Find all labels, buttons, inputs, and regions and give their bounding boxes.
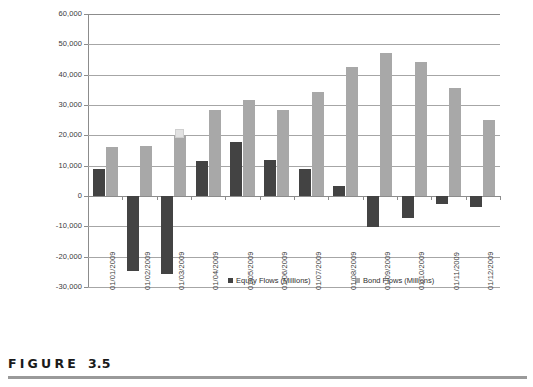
bar-equity-01/09/2009 xyxy=(367,196,379,227)
y-tick--30000 xyxy=(84,287,88,288)
bar-bond-01/03/2009 xyxy=(174,136,186,196)
bar-equity-01/10/2009 xyxy=(402,196,414,218)
bar-bond-01/11/2009 xyxy=(449,88,461,196)
figure-number: 3.5 xyxy=(88,356,111,371)
bar-bond-01/04/2009 xyxy=(209,110,221,196)
bar-equity-01/12/2009 xyxy=(470,196,482,207)
x-tick xyxy=(157,196,158,200)
x-axis-tick-label: 01/07/2009 xyxy=(314,230,323,290)
bar-equity-01/02/2009 xyxy=(127,196,139,271)
bar-bond-01/12/2009 xyxy=(483,120,495,196)
bar-equity-01/07/2009 xyxy=(299,169,311,196)
y-tick-40000 xyxy=(84,75,88,76)
x-axis-tick-label: 01/08/2009 xyxy=(349,230,358,290)
x-axis-labels: 01/01/200901/02/200901/03/200901/04/2009… xyxy=(88,290,500,352)
bar-bond-01/07/2009 xyxy=(312,92,324,196)
bar-bond-01/05/2009 xyxy=(243,100,255,196)
x-axis-tick-label: 01/11/2009 xyxy=(452,230,461,290)
gridline-60000 xyxy=(88,14,500,15)
x-axis-tick-label: 01/05/2009 xyxy=(246,230,255,290)
y-axis-tick-label: 30,000 xyxy=(36,101,82,109)
y-axis-tick-label: -30,000 xyxy=(36,283,82,291)
bar-top-artifact xyxy=(175,129,184,138)
x-tick xyxy=(191,196,192,200)
y-axis-tick-label: -20,000 xyxy=(36,253,82,261)
y-axis-tick-label: -10,000 xyxy=(36,222,82,230)
x-tick xyxy=(466,196,467,200)
x-tick xyxy=(431,196,432,200)
bar-chart: 60,00050,00040,00030,00020,00010,0000-10… xyxy=(0,0,533,352)
x-tick xyxy=(500,196,501,200)
x-axis-tick-label: 01/02/2009 xyxy=(143,230,152,290)
bar-bond-01/06/2009 xyxy=(277,110,289,196)
y-tick--10000 xyxy=(84,226,88,227)
y-axis-tick-label: 50,000 xyxy=(36,40,82,48)
bar-equity-01/04/2009 xyxy=(196,161,208,196)
bar-bond-01/01/2009 xyxy=(106,147,118,196)
y-tick--20000 xyxy=(84,257,88,258)
x-tick xyxy=(397,196,398,200)
y-tick-10000 xyxy=(84,166,88,167)
x-tick xyxy=(260,196,261,200)
bar-bond-01/08/2009 xyxy=(346,67,358,196)
x-axis-tick-label: 01/06/2009 xyxy=(280,230,289,290)
x-axis-tick-label: 01/09/2009 xyxy=(383,230,392,290)
y-axis-line xyxy=(88,14,89,287)
bar-equity-01/06/2009 xyxy=(264,160,276,196)
y-tick-50000 xyxy=(84,44,88,45)
gridline-20000 xyxy=(88,135,500,136)
x-tick xyxy=(328,196,329,200)
y-axis-tick-label: 0 xyxy=(36,192,82,200)
y-axis-tick-label: 60,000 xyxy=(36,10,82,18)
x-axis-tick-label: 01/03/2009 xyxy=(177,230,186,290)
bar-bond-01/10/2009 xyxy=(415,62,427,196)
bar-bond-01/09/2009 xyxy=(380,53,392,196)
bar-equity-01/08/2009 xyxy=(333,186,345,196)
gridline--10000 xyxy=(88,226,500,227)
figure-rule xyxy=(8,376,527,379)
x-tick xyxy=(294,196,295,200)
y-tick-60000 xyxy=(84,14,88,15)
y-tick-0 xyxy=(84,196,88,197)
figure-caption-row: FIGURE 3.5 xyxy=(8,356,111,371)
y-axis-labels: 60,00050,00040,00030,00020,00010,0000-10… xyxy=(30,0,82,352)
bar-bond-01/02/2009 xyxy=(140,146,152,196)
bar-equity-01/03/2009 xyxy=(161,196,173,274)
figure-caption: FIGURE 3.5 xyxy=(0,352,533,387)
gridline-30000 xyxy=(88,105,500,106)
bar-equity-01/01/2009 xyxy=(93,169,105,196)
gridline-40000 xyxy=(88,75,500,76)
y-axis-tick-label: 10,000 xyxy=(36,162,82,170)
x-axis-tick-label: 01/10/2009 xyxy=(417,230,426,290)
y-tick-20000 xyxy=(84,135,88,136)
x-tick xyxy=(122,196,123,200)
figure-page: 60,00050,00040,00030,00020,00010,0000-10… xyxy=(0,0,533,387)
x-tick xyxy=(363,196,364,200)
x-tick xyxy=(225,196,226,200)
x-axis-tick-label: 01/01/2009 xyxy=(108,230,117,290)
y-axis-tick-label: 40,000 xyxy=(36,71,82,79)
figure-label: FIGURE xyxy=(8,356,79,371)
x-axis-tick-label: 01/12/2009 xyxy=(486,230,495,290)
y-axis-tick-label: 20,000 xyxy=(36,131,82,139)
gridline-50000 xyxy=(88,44,500,45)
x-axis-tick-label: 01/04/2009 xyxy=(211,230,220,290)
bar-equity-01/05/2009 xyxy=(230,142,242,196)
bar-equity-01/11/2009 xyxy=(436,196,448,204)
y-tick-30000 xyxy=(84,105,88,106)
